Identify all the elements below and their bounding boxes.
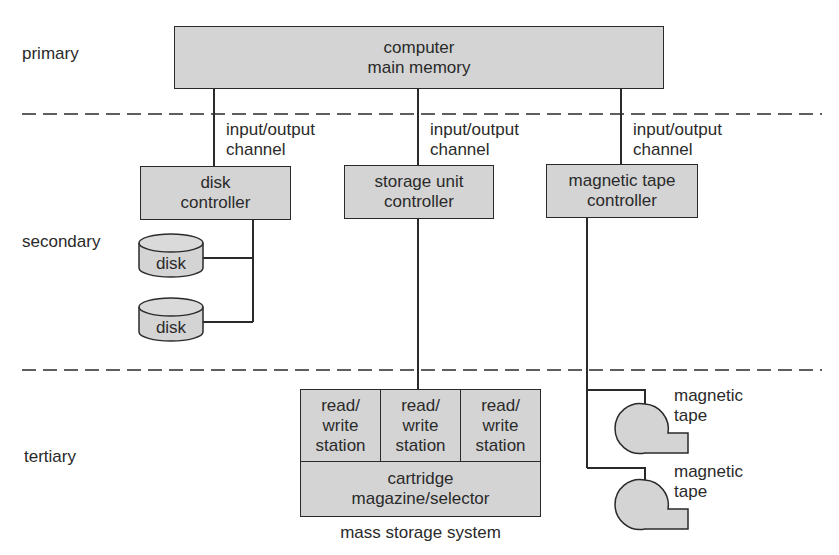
tape-label: magnetic tape (674, 462, 743, 502)
rw-station-3: read/ write station (460, 389, 541, 462)
rw-station-2: read/ write station (380, 389, 461, 462)
channel-label-left: input/output channel (226, 120, 315, 160)
tape-1-link (587, 390, 645, 404)
channel-label-middle: input/output channel (430, 120, 519, 160)
disk-label: disk (139, 254, 203, 274)
storage-unit-controller-box: storage unit controller (344, 165, 494, 219)
tier-label-tertiary: tertiary (24, 447, 76, 467)
disk-label: disk (139, 318, 203, 338)
channel-label-right: input/output channel (633, 120, 722, 160)
tape-controller-box: magnetic tape controller (546, 164, 698, 218)
tier-label-primary: primary (22, 44, 79, 64)
mass-storage-caption: mass storage system (300, 523, 541, 543)
tape-2-link (587, 468, 645, 480)
cartridge-magazine-box: cartridge magazine/selector (300, 461, 541, 517)
main-memory-box: computer main memory (174, 26, 664, 89)
rw-station-1: read/ write station (300, 389, 381, 462)
tape-label: magnetic tape (674, 386, 743, 426)
tier-label-secondary: secondary (22, 232, 100, 252)
disk-controller-box: disk controller (140, 166, 291, 220)
